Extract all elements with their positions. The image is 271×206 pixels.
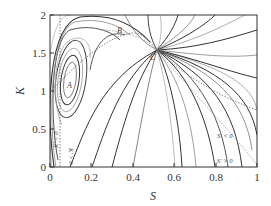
s-nullcline-lower (100, 30, 257, 165)
y-axis-label: K (13, 86, 27, 96)
y-tick: 1 (41, 85, 47, 97)
plot-frame (50, 15, 257, 167)
x-tick: 1 (254, 171, 260, 183)
y-tick: 0.5 (32, 123, 46, 135)
x-tick: 0.8 (209, 171, 223, 183)
point-label-b: B (117, 26, 122, 35)
point-label-a: A (66, 81, 72, 90)
y-tick: 2 (41, 9, 47, 21)
y-tick: 0 (41, 161, 47, 173)
x-tick: 0.2 (84, 171, 98, 183)
region-label-kdot-pos: K' > 0 (68, 147, 75, 165)
nullclines (50, 15, 257, 167)
x-tick-labels: 0 0.2 0.4 0.6 0.8 1 (47, 171, 260, 183)
region-label-kdot-neg: K' < 0 (52, 131, 59, 149)
s-nullcline-upper (50, 33, 257, 110)
point-label-c: C (150, 53, 156, 62)
y-tick-labels: 0 0.5 1 1.5 2 (32, 9, 46, 173)
region-label-sdot-neg: S' < 0 (217, 132, 233, 139)
phase-portrait-chart: 0 0.2 0.4 0.6 0.8 1 0 0.5 1 1.5 2 S K A … (0, 0, 271, 206)
trajectories (48, 15, 257, 167)
y-tick: 1.5 (32, 47, 46, 59)
x-tick: 0.4 (126, 171, 140, 183)
x-tick: 0.6 (167, 171, 181, 183)
tick-marks (50, 15, 257, 167)
x-axis-label: S (150, 189, 156, 203)
x-tick: 0 (47, 171, 53, 183)
region-label-sdot-pos: S' > 0 (217, 157, 233, 164)
